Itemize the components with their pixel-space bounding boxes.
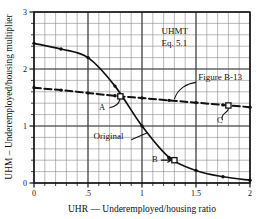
point-marker-a <box>118 94 123 99</box>
data-point-marker <box>59 47 62 50</box>
point-marker-b <box>172 158 177 163</box>
data-point-marker <box>248 105 251 108</box>
data-point-marker <box>86 56 89 59</box>
data-point-marker <box>32 42 35 45</box>
figure-container: 0.511.52 0123 UHMTEq. 5.1Figure B-13Orig… <box>0 0 267 219</box>
annotation-original: Original <box>93 131 123 141</box>
data-point-marker <box>194 101 197 104</box>
x-tick-label: 1.5 <box>191 189 201 198</box>
annotation-UHMT: UHMT <box>161 26 188 36</box>
x-axis-label: UHR — Underemployed/housing ratio <box>68 204 216 214</box>
x-tick-label: 1 <box>140 189 144 198</box>
point-label-b: B <box>152 154 158 164</box>
x-tick-label: 0 <box>32 189 36 198</box>
annotation-equation: Eq. 5.1 <box>161 38 187 48</box>
data-point-marker <box>140 96 143 99</box>
point-label-a: A <box>99 102 106 112</box>
data-point-marker <box>140 124 143 127</box>
y-tick-label: 1 <box>23 122 27 131</box>
data-point-marker <box>86 91 89 94</box>
x-tick-label: 2 <box>248 189 252 198</box>
data-point-marker <box>221 103 224 106</box>
annotation-figure-b13: Figure B-13 <box>198 72 242 82</box>
data-point-marker <box>167 99 170 102</box>
y-tick-label: 0 <box>23 179 27 188</box>
data-point-marker <box>113 84 116 87</box>
data-point-marker <box>248 178 251 181</box>
data-point-marker <box>194 169 197 172</box>
data-point-marker <box>32 86 35 89</box>
chart-canvas: 0.511.52 0123 UHMTEq. 5.1Figure B-13Orig… <box>0 0 267 219</box>
point-marker-c <box>226 103 231 108</box>
y-tick-label: 2 <box>23 65 27 74</box>
y-tick-label: 3 <box>23 8 27 17</box>
data-point-marker <box>221 175 224 178</box>
chart-background <box>0 0 267 219</box>
x-tick-label: .5 <box>85 189 91 198</box>
y-axis-label: UHM – Underemployed/housing multiplier <box>4 13 14 179</box>
point-label-c: C <box>217 115 223 125</box>
data-point-marker <box>59 88 62 91</box>
data-point-marker <box>113 94 116 97</box>
